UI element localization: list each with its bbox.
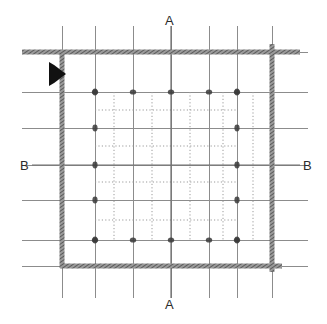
structural-node <box>234 89 239 96</box>
structural-node <box>234 197 239 204</box>
structural-node <box>92 125 97 132</box>
section-label-b-right: B <box>303 159 312 172</box>
grid-horizontal-lines <box>22 52 308 266</box>
structural-node <box>168 237 174 242</box>
section-label-a-top: A <box>165 14 174 27</box>
structural-node <box>92 89 97 96</box>
grid-vertical-lines <box>62 26 272 298</box>
structural-node <box>206 89 212 94</box>
section-label-a-bottom: A <box>165 298 174 311</box>
structural-plan-drawing: A A B B <box>0 0 327 324</box>
structural-node <box>206 237 212 242</box>
structural-node <box>234 125 239 132</box>
plan-canvas <box>0 0 327 324</box>
structural-node <box>234 237 239 244</box>
structural-node <box>130 89 136 94</box>
structural-node <box>92 162 97 169</box>
structural-node <box>168 89 174 94</box>
structural-node <box>92 237 97 244</box>
perimeter-walls <box>22 44 300 272</box>
grid-dotted-vertical-lines <box>114 92 253 240</box>
structural-node <box>92 197 97 204</box>
section-label-b-left: B <box>20 159 29 172</box>
structural-node <box>234 162 239 169</box>
structural-node <box>130 237 136 242</box>
